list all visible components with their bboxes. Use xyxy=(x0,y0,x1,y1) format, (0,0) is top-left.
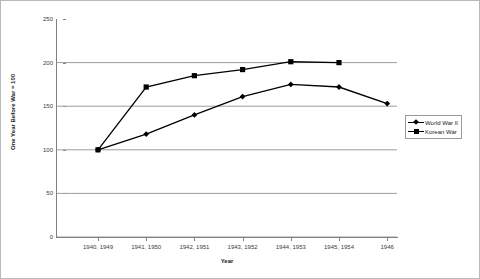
legend-diamond-marker-icon xyxy=(408,118,424,127)
data-point-marker xyxy=(95,147,100,152)
y-axis-title: One Year Before War = 100 xyxy=(10,32,16,192)
y-tick-label: 250 xyxy=(19,16,53,22)
x-tick-mark xyxy=(146,238,147,241)
y-axis-tick-labels: 050100150200250 xyxy=(11,1,53,279)
data-point-marker xyxy=(143,131,149,137)
data-point-marker xyxy=(336,84,342,90)
x-tick-mark xyxy=(387,238,388,241)
y-tick-label: 100 xyxy=(19,147,53,153)
y-tick-label: 200 xyxy=(19,60,53,66)
y-tick-label: 0 xyxy=(19,234,53,240)
x-tick-label: 1946 xyxy=(352,244,422,250)
data-series-layer xyxy=(57,19,397,237)
data-point-marker xyxy=(240,94,246,100)
plot-area xyxy=(57,19,397,237)
data-point-marker xyxy=(192,112,198,118)
legend-label: Korean War xyxy=(424,129,457,135)
data-point-marker xyxy=(288,82,294,88)
legend-square-marker-icon xyxy=(408,127,424,136)
data-point-marker xyxy=(144,84,149,89)
y-tick-label: 50 xyxy=(19,190,53,196)
x-tick-mark xyxy=(291,238,292,241)
data-point-marker xyxy=(336,60,341,65)
data-point-marker xyxy=(240,67,245,72)
x-tick-mark xyxy=(339,238,340,241)
x-tick-mark xyxy=(98,238,99,241)
x-tick-mark xyxy=(243,238,244,241)
y-tick-label: 150 xyxy=(19,103,53,109)
x-tick-mark xyxy=(194,238,195,241)
data-point-marker xyxy=(192,73,197,78)
legend-label: World War II xyxy=(424,120,458,126)
legend-item[interactable]: Korean War xyxy=(408,127,458,136)
x-axis-title: Year xyxy=(1,258,453,264)
legend-item[interactable]: World War II xyxy=(408,118,458,127)
x-axis-line xyxy=(56,237,398,238)
data-point-marker xyxy=(384,101,390,107)
chart-legend: World War IIKorean War xyxy=(405,115,462,139)
chart-figure: 050100150200250 One Year Before War = 10… xyxy=(0,0,480,279)
data-point-marker xyxy=(288,59,293,64)
